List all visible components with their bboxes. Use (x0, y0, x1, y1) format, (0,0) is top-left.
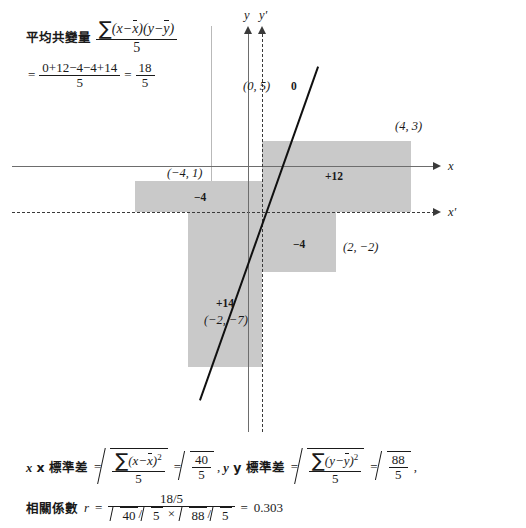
mean-point-label: (0, 5) (243, 79, 270, 94)
y-axis-label: y (244, 8, 250, 23)
x-prime-axis-arrow-icon (433, 208, 441, 216)
x-sd-result-denominator: 5 (192, 468, 211, 482)
correlation-result: 0.303 (254, 500, 283, 516)
correlation-result-equals: = (241, 500, 248, 516)
correlation-den-sqrt5b: 5 (211, 507, 232, 523)
x-sd-exponent: 2 (157, 452, 162, 462)
x-sd-fraction: ∑(x−x)2 5 (112, 450, 164, 486)
correlation-den-sqrt88: 88 (180, 507, 207, 523)
y-sd-result-fraction: 88 5 (389, 453, 408, 482)
y-sd-radical: ∑(y−y)2 5 (298, 448, 364, 486)
y-sd-denominator: 5 (309, 472, 361, 486)
correlation-den-sqrt40: 40 (111, 507, 138, 523)
y-prime-axis-arrow-icon (258, 26, 266, 34)
y-sd-label: y y 標準差 (223, 457, 284, 476)
correlation-variable: r (84, 500, 89, 516)
x-sd-result-numerator: 40 (192, 453, 211, 468)
y-sd-numerator: ∑(y−y)2 (309, 450, 361, 472)
correlation-numerator: 18/5 (108, 492, 234, 507)
y-sd-result-radical: 88 5 (378, 451, 411, 482)
product-value-minus4-upper: −4 (194, 191, 206, 203)
sigma-icon-x: ∑ (115, 449, 128, 471)
x-prime-axis-line (12, 212, 435, 213)
y-prime-axis-label: y' (259, 8, 267, 23)
point-label-4-3: (4, 3) (395, 119, 422, 134)
product-value-zero: 0 (291, 80, 297, 92)
product-value-plus14: +14 (216, 297, 234, 309)
x-sd-result-radical: 40 5 (181, 451, 214, 482)
x-sd-result-fraction: 40 5 (192, 453, 211, 482)
y-sd-fraction: ∑(y−y)2 5 (309, 450, 361, 486)
x-sd-label: x x 標準差 (26, 457, 88, 476)
y-sd-result-numerator: 88 (389, 453, 408, 468)
point-label-minus4-1: (−4, 1) (167, 166, 203, 181)
y-sd-result-denominator: 5 (389, 468, 408, 482)
correlation-equals: = (95, 500, 102, 516)
correlation-denominator: 40/5 × 88/5 (108, 507, 234, 523)
y-sd-exponent: 2 (354, 452, 359, 462)
x-axis-label: x (448, 159, 454, 174)
point-label-2-minus2: (2, −2) (343, 240, 379, 255)
sigma-icon-y: ∑ (312, 449, 325, 471)
correlation-label: 相關係數 (26, 498, 78, 517)
x-axis-arrow-icon (433, 162, 441, 170)
x-sd-denominator: 5 (112, 472, 164, 486)
x-prime-axis-label: x' (448, 205, 456, 220)
x-sd-numerator: ∑(x−x)2 (112, 450, 164, 472)
product-value-minus4-lower: −4 (293, 238, 305, 250)
correlation-den-sqrt5a: 5 (142, 507, 163, 523)
product-value-plus12: +12 (325, 170, 343, 182)
correlation-fraction: 18/5 40/5 × 88/5 (108, 492, 234, 523)
correlation-coefficient-formula: 相關係數 r = 18/5 40/5 × 88/5 = 0.303 (26, 492, 283, 523)
worksheet-page: 平均共變量 ∑(x−x)(y−y) 5 = 0+12−4−4+14 5 = 18… (0, 0, 526, 528)
y-axis-arrow-icon (244, 26, 252, 34)
zero-product-rect-left-edge (211, 26, 212, 181)
x-sd-radical: ∑(x−x)2 5 (101, 448, 167, 486)
standard-deviation-formulas: x x 標準差 = ∑(x−x)2 5 = 40 5 , y y 標準差 = (26, 448, 417, 486)
x-axis-line (12, 166, 435, 167)
correlation-den-times: × (168, 506, 175, 521)
point-label-minus2-minus7: (−2, −7) (204, 313, 248, 328)
sd-trailing-comma: , (414, 459, 417, 475)
deviation-rect-plus14 (188, 212, 262, 367)
sd-separator: , (217, 459, 220, 475)
